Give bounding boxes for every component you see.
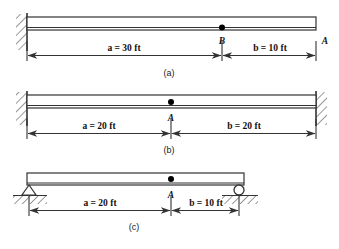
dimension-b-label: b = 10 ft bbox=[253, 43, 287, 53]
panel-a: B A a = 30 ft b = 10 ft (a) bbox=[16, 13, 328, 78]
panel-b: A a = 20 ft b = 20 ft (b) bbox=[16, 91, 327, 155]
dimension-a-label: a = 20 ft bbox=[82, 121, 116, 131]
dimension-b-label: b = 10 ft bbox=[189, 198, 223, 208]
point-b-marker bbox=[219, 25, 225, 31]
panel-c: A a = 20 ft b = 10 ft (c) bbox=[13, 173, 258, 232]
pin-support-left bbox=[13, 185, 47, 204]
dimension-a-label: a = 20 ft bbox=[83, 198, 117, 208]
point-a-marker bbox=[168, 176, 174, 182]
caption-c: (c) bbox=[129, 222, 140, 232]
caption-b: (b) bbox=[164, 145, 175, 155]
beam-member bbox=[27, 173, 244, 185]
caption-a: (a) bbox=[164, 68, 175, 78]
dimension-a-label: a = 30 ft bbox=[107, 43, 141, 53]
point-a-marker bbox=[168, 99, 174, 105]
dimension-b-label: b = 20 ft bbox=[227, 121, 261, 131]
roller-support-right bbox=[222, 185, 258, 204]
point-a-label: A bbox=[321, 36, 328, 46]
fixed-wall-support-right bbox=[316, 91, 327, 126]
beam-member bbox=[27, 17, 316, 30]
fixed-wall-support-left bbox=[16, 13, 27, 51]
fixed-wall-support-left bbox=[16, 91, 27, 126]
beam-diagram-figure: B A a = 30 ft b = 10 ft (a) bbox=[0, 0, 339, 249]
